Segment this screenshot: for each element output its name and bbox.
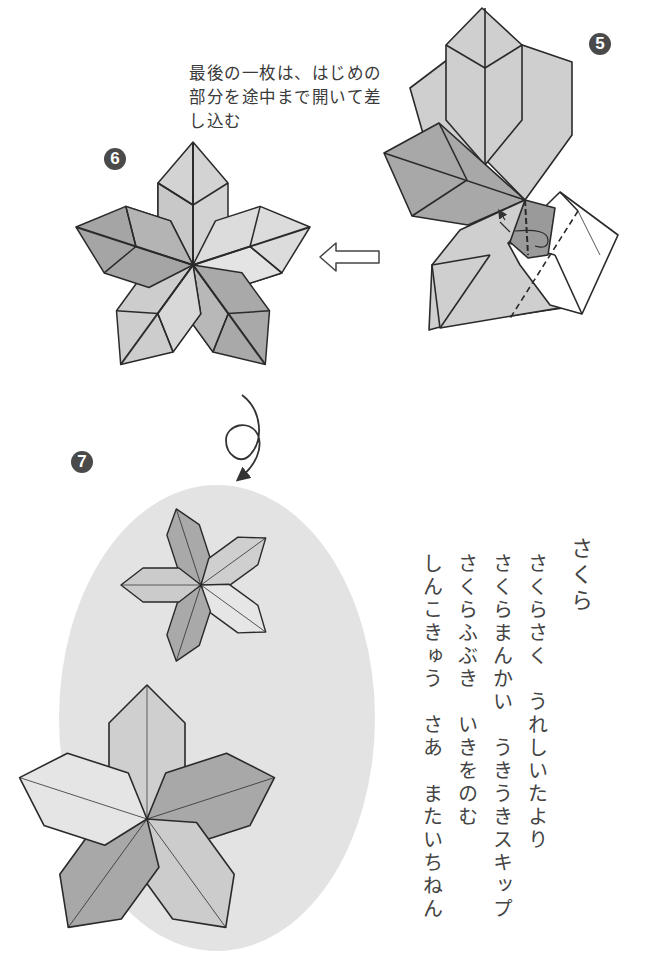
poem-title: さくら: [563, 537, 595, 615]
poem-line-2: さくらまんかい うきうきスキップ: [486, 553, 516, 921]
turn-over-loop-arrow-icon: [226, 395, 260, 478]
step-5-diagram: [384, 8, 618, 330]
poem-line-3: さくらふぶき いきをのむ: [451, 553, 481, 829]
poem-line-4: しんこきゅう さあ またいちねん: [416, 553, 446, 921]
step-6-flower: [65, 142, 321, 385]
left-hollow-arrow-icon: [320, 243, 379, 271]
poem-line-1: さくらさく うれしいたより: [521, 553, 551, 852]
